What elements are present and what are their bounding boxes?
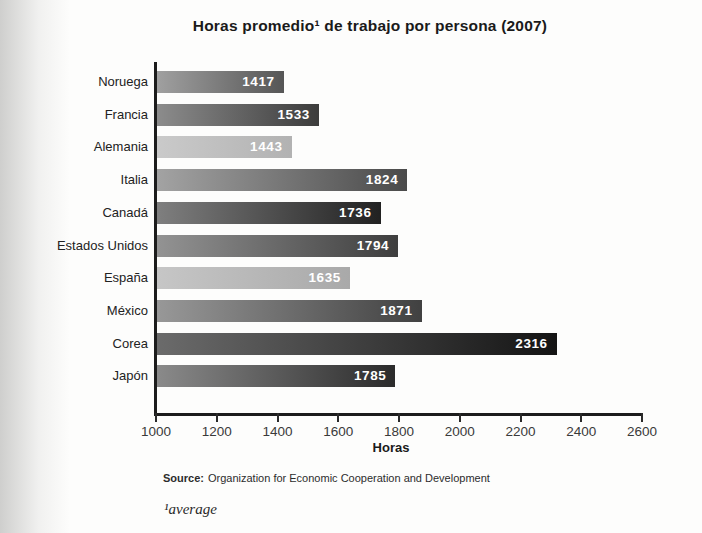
x-tick-label: 2400 <box>551 424 611 439</box>
x-tick-mark <box>580 413 582 422</box>
bar: 1824 <box>157 169 407 191</box>
bar: 1417 <box>157 71 284 93</box>
category-label: Estados Unidos <box>0 235 148 257</box>
x-tick-mark <box>398 413 400 422</box>
footnote: ¹average <box>164 501 217 518</box>
x-tick-label: 1000 <box>126 424 186 439</box>
bar: 1871 <box>157 300 422 322</box>
bar-value-label: 1443 <box>250 136 282 158</box>
bar: 1533 <box>157 104 319 126</box>
category-label: Alemania <box>0 136 148 158</box>
category-label: Corea <box>0 333 148 355</box>
category-label: Noruega <box>0 71 148 93</box>
figure: Horas promedio¹ de trabajo por persona (… <box>0 0 702 533</box>
bar: 1736 <box>157 202 381 224</box>
category-label: España <box>0 267 148 289</box>
chart-title: Horas promedio¹ de trabajo por persona (… <box>60 17 680 35</box>
bar-value-label: 1635 <box>308 267 340 289</box>
category-label: México <box>0 300 148 322</box>
x-tick-mark <box>641 413 643 422</box>
x-tick-mark <box>277 413 279 422</box>
category-label: Italia <box>0 169 148 191</box>
bar: 1635 <box>157 267 350 289</box>
x-tick-label: 1400 <box>248 424 308 439</box>
bar-value-label: 1533 <box>277 104 309 126</box>
x-tick-label: 2000 <box>430 424 490 439</box>
category-label: Japón <box>0 365 148 387</box>
bar-value-label: 1736 <box>339 202 371 224</box>
x-tick-label: 1600 <box>308 424 368 439</box>
bar-value-label: 1794 <box>357 235 389 257</box>
category-label: Francia <box>0 104 148 126</box>
x-tick-label: 2600 <box>612 424 672 439</box>
x-tick-label: 2200 <box>491 424 551 439</box>
source-label: Source: <box>163 472 204 484</box>
bar-value-label: 2316 <box>515 333 547 355</box>
source-text: Organization for Economic Cooperation an… <box>208 472 490 484</box>
bar-value-label: 1824 <box>366 169 398 191</box>
x-tick-label: 1200 <box>187 424 247 439</box>
x-tick-mark <box>216 413 218 422</box>
x-tick-label: 1800 <box>369 424 429 439</box>
plot-area: 1417153314431824173617941635187123161785 <box>156 62 642 413</box>
bar: 1785 <box>157 365 395 387</box>
bar-value-label: 1871 <box>380 300 412 322</box>
bar: 1794 <box>157 235 398 257</box>
x-axis-title: Horas <box>156 440 626 455</box>
x-tick-mark <box>337 413 339 422</box>
x-tick-mark <box>520 413 522 422</box>
x-tick-mark <box>459 413 461 422</box>
bar: 1443 <box>157 136 292 158</box>
category-label: Canadá <box>0 202 148 224</box>
source-note: Source:Organization for Economic Coopera… <box>163 472 490 484</box>
bar-value-label: 1785 <box>354 365 386 387</box>
x-tick-mark <box>155 413 157 422</box>
bar: 2316 <box>157 333 557 355</box>
bar-value-label: 1417 <box>242 71 274 93</box>
